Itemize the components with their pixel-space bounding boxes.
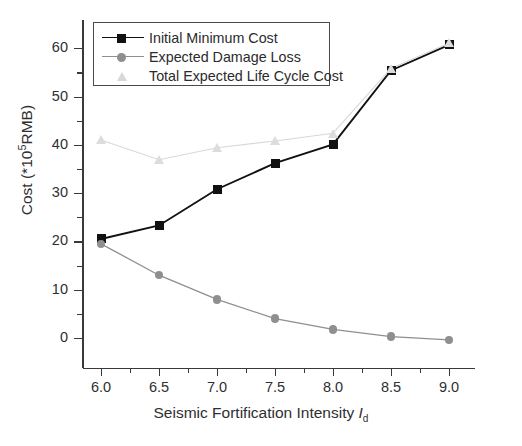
data-point [155, 221, 164, 230]
circle-marker-icon [117, 53, 126, 62]
x-tick [101, 368, 102, 376]
x-axis-label-subscript: d [363, 413, 369, 424]
x-tick-label: 6.0 [76, 379, 126, 395]
x-tick-label: 7.0 [192, 379, 242, 395]
data-point [329, 325, 338, 334]
data-point [213, 295, 222, 304]
x-tick-label: 9.0 [424, 379, 474, 395]
data-point [213, 185, 222, 194]
data-point [329, 140, 338, 149]
y-tick-label: 0 [28, 329, 68, 345]
y-tick-minor [77, 266, 82, 267]
legend-key [102, 31, 144, 45]
data-point [271, 314, 280, 323]
data-point [444, 38, 454, 47]
x-tick [449, 368, 450, 376]
y-axis-label: Cost (*105RMB) [16, 50, 36, 270]
chart-figure: 0102030405060 6.06.57.07.58.08.59.0 Cost… [0, 0, 522, 446]
x-tick [217, 368, 218, 376]
y-tick [74, 145, 82, 146]
x-tick [333, 368, 334, 376]
y-tick [74, 97, 82, 98]
y-axis-label-prefix: Cost (*10 [18, 151, 35, 216]
y-tick [74, 193, 82, 194]
y-tick [74, 241, 82, 242]
legend-item[interactable]: Total Expected Life Cycle Cost [102, 66, 321, 85]
data-point [271, 159, 280, 168]
x-tick-minor [130, 368, 131, 373]
triangle-marker-icon [117, 72, 127, 81]
x-axis-line [83, 368, 475, 370]
x-tick-label: 7.5 [250, 379, 300, 395]
data-point [270, 136, 280, 145]
x-tick-minor [304, 368, 305, 373]
legend-item[interactable]: Expected Damage Loss [102, 47, 321, 66]
x-tick [159, 368, 160, 376]
legend-label: Expected Damage Loss [149, 49, 301, 65]
y-tick-minor [77, 314, 82, 315]
y-tick [74, 290, 82, 291]
x-tick-minor [420, 368, 421, 373]
x-tick-minor [246, 368, 247, 373]
data-point [96, 135, 106, 144]
x-tick-minor [362, 368, 363, 373]
x-tick [275, 368, 276, 376]
y-axis-label-superscript: 5 [16, 145, 28, 151]
x-axis-label-text: Seismic Fortification Intensity [154, 404, 359, 421]
legend-item[interactable]: Initial Minimum Cost [102, 28, 321, 47]
legend-label: Initial Minimum Cost [149, 30, 278, 46]
y-tick-label: 10 [28, 281, 68, 297]
y-tick-minor [77, 217, 82, 218]
data-point [386, 64, 396, 73]
x-axis-label: Seismic Fortification Intensity Id [0, 404, 522, 424]
y-tick-minor [77, 121, 82, 122]
y-axis-line [82, 20, 84, 368]
data-point [387, 332, 396, 341]
y-tick-minor [77, 169, 82, 170]
x-tick [391, 368, 392, 376]
data-point [212, 143, 222, 152]
y-axis-label-suffix: RMB) [18, 105, 35, 145]
y-tick-minor [77, 72, 82, 73]
chart-legend: Initial Minimum CostExpected Damage Loss… [93, 22, 330, 86]
y-tick [74, 48, 82, 49]
legend-key [102, 69, 144, 83]
series-line-1 [101, 244, 449, 340]
data-point [328, 129, 338, 138]
legend-label: Total Expected Life Cycle Cost [149, 68, 343, 84]
x-tick-label: 8.0 [308, 379, 358, 395]
x-tick-label: 8.5 [366, 379, 416, 395]
y-tick [74, 338, 82, 339]
data-point [154, 155, 164, 164]
legend-key [102, 50, 144, 64]
square-marker-icon [117, 34, 126, 43]
x-tick-label: 6.5 [134, 379, 184, 395]
x-tick-minor [188, 368, 189, 373]
